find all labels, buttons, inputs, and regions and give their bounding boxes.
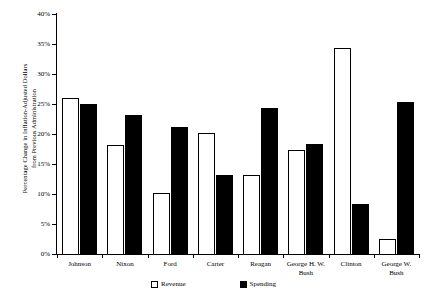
- bar-revenue: [198, 133, 215, 254]
- x-axis-category-label-line: George W.: [374, 260, 419, 269]
- y-axis-tick-label: 40%: [4, 11, 50, 18]
- x-axis-category-label-line: Johnson: [57, 260, 102, 269]
- bar-spending: [216, 175, 233, 254]
- x-axis-tick: [148, 254, 149, 258]
- x-axis-tick: [419, 254, 420, 258]
- x-axis-tick: [238, 254, 239, 258]
- legend-label: Revenue: [161, 280, 186, 289]
- bar-group: [329, 14, 374, 254]
- x-axis-category-label: George H. W.Bush: [283, 260, 328, 278]
- y-axis-tick-label: 15%: [4, 161, 50, 168]
- y-axis-title-line-1: Percentage Change in Inflation-Adjusted …: [21, 64, 28, 194]
- x-axis-tick: [57, 254, 58, 258]
- bar-group: [102, 14, 147, 254]
- black-square-icon: [240, 281, 247, 288]
- x-axis-category-label-line: Reagan: [238, 260, 283, 269]
- x-axis-tick: [283, 254, 284, 258]
- bar-group: [283, 14, 328, 254]
- bar-revenue: [153, 193, 170, 254]
- x-axis-tick: [374, 254, 375, 258]
- bar-spending: [261, 108, 278, 254]
- x-axis-category-label: Carter: [193, 260, 238, 278]
- y-axis-tick-label: 5%: [4, 221, 50, 228]
- x-axis-category-label-line: Bush: [283, 269, 328, 278]
- bar-group: [57, 14, 102, 254]
- x-axis-category-label-line: Ford: [148, 260, 193, 269]
- bar-spending: [352, 204, 369, 254]
- y-axis-tick-label: 35%: [4, 41, 50, 48]
- bar-revenue: [107, 145, 124, 254]
- x-axis-category-label-line: Clinton: [329, 260, 374, 269]
- bar-spending: [306, 144, 323, 254]
- bar-chart: Percentage Change in Inflation-Adjusted …: [0, 0, 427, 298]
- x-axis-category-label-line: Carter: [193, 260, 238, 269]
- legend-item-revenue[interactable]: Revenue: [151, 280, 186, 289]
- x-axis-category-label-line: Bush: [374, 269, 419, 278]
- bar-spending: [397, 102, 414, 254]
- chart-legend: RevenueSpending: [0, 280, 427, 289]
- bar-revenue: [62, 98, 79, 254]
- bar-groups: [57, 14, 419, 254]
- legend-item-spending[interactable]: Spending: [240, 280, 276, 289]
- x-axis-tick: [329, 254, 330, 258]
- x-axis-category-label: Clinton: [329, 260, 374, 278]
- x-axis-tick: [102, 254, 103, 258]
- x-axis-category-label: Reagan: [238, 260, 283, 278]
- bar-spending: [171, 127, 188, 254]
- x-axis-category-labels: JohnsonNixonFordCarterReaganGeorge H. W.…: [57, 260, 419, 278]
- x-axis-category-label: Johnson: [57, 260, 102, 278]
- bar-revenue: [243, 175, 260, 254]
- y-axis-title: Percentage Change in Inflation-Adjusted …: [21, 14, 38, 244]
- bar-spending: [125, 115, 142, 254]
- legend-label: Spending: [250, 280, 276, 289]
- bar-group: [374, 14, 419, 254]
- x-axis-tick: [193, 254, 194, 258]
- bar-spending: [80, 104, 97, 254]
- bar-revenue: [288, 150, 305, 254]
- y-axis-tick-label: 20%: [4, 131, 50, 138]
- x-axis-category-label-line: George H. W.: [283, 260, 328, 269]
- bar-revenue: [334, 48, 351, 254]
- y-axis-tick-label: 25%: [4, 101, 50, 108]
- bar-group: [193, 14, 238, 254]
- x-axis-category-label: Ford: [148, 260, 193, 278]
- x-axis-category-label: Nixon: [102, 260, 147, 278]
- white-square-icon: [151, 281, 158, 288]
- bar-group: [148, 14, 193, 254]
- x-axis-category-label-line: Nixon: [102, 260, 147, 269]
- bar-group: [238, 14, 283, 254]
- y-axis-title-line-2: from Previous Administration: [29, 14, 38, 244]
- y-axis-tick-label: 10%: [4, 191, 50, 198]
- x-axis-category-label: George W.Bush: [374, 260, 419, 278]
- y-axis-tick-label: 30%: [4, 71, 50, 78]
- y-axis-tick-label: 0%: [4, 251, 50, 258]
- bar-revenue: [379, 239, 396, 254]
